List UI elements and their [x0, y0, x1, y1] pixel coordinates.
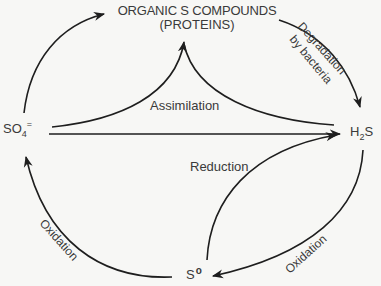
label-reduction-text: Reduction: [190, 159, 249, 174]
label-assimilation-text: Assimilation: [150, 98, 219, 113]
h2s-h: H: [350, 124, 359, 139]
arrow-assimilation-left: [52, 42, 184, 127]
arrow-sulfate-to-organic: [24, 14, 104, 113]
label-reduction: Reduction: [190, 160, 249, 173]
label-assimilation: Assimilation: [150, 99, 219, 112]
organic-line2: (PROTEINS): [111, 18, 283, 31]
sulfate-superscript: =: [27, 119, 32, 129]
node-elemental-sulfur: So: [186, 268, 202, 281]
sulfate-subscript: 4: [22, 129, 27, 139]
h2s-subscript: 2: [359, 132, 364, 142]
s0-superscript: o: [196, 265, 202, 276]
sulfur-cycle-diagram: ORGANIC S COMPOUNDS (PROTEINS) SO4= H2S …: [0, 0, 381, 286]
node-hydrogen-sulfide: H2S: [350, 125, 373, 138]
s0-base: S: [186, 267, 195, 282]
node-organic-s-compounds: ORGANIC S COMPOUNDS (PROTEINS): [111, 4, 283, 31]
sulfate-base: SO: [3, 121, 22, 136]
h2s-s: S: [364, 124, 373, 139]
node-sulfate: SO4=: [3, 122, 32, 135]
organic-line1: ORGANIC S COMPOUNDS: [111, 4, 283, 17]
